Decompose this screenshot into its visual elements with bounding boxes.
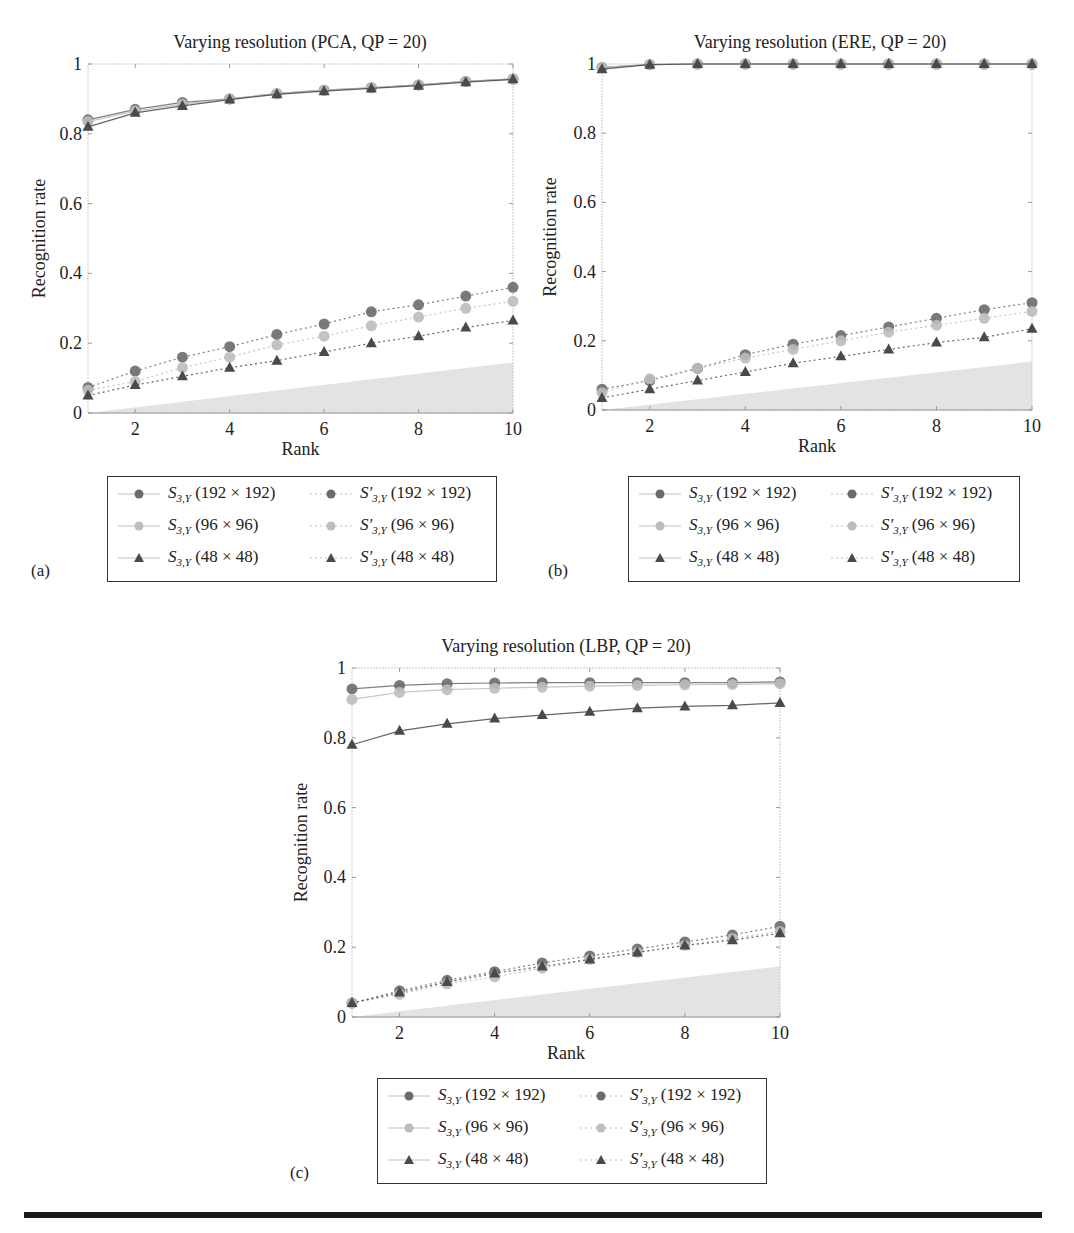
circle-marker-icon bbox=[829, 518, 875, 534]
legend-label: S′3,Y (48 × 48) bbox=[881, 547, 975, 568]
x-tick-label: 4 bbox=[741, 416, 750, 436]
x-tick-label: 10 bbox=[504, 419, 522, 439]
triangle-marker bbox=[489, 713, 500, 723]
x-tick-label: 4 bbox=[490, 1023, 499, 1043]
legend-entry: S3,Y (192 × 192) bbox=[386, 1085, 546, 1106]
legend-label: S3,Y (192 × 192) bbox=[689, 483, 797, 504]
legend-label: S3,Y (192 × 192) bbox=[168, 483, 276, 504]
chart-title: Varying resolution (PCA, QP = 20) bbox=[173, 32, 426, 53]
x-axis-label: Rank bbox=[798, 436, 836, 456]
triangle-marker bbox=[931, 337, 942, 347]
legend-label: S′3,Y (192 × 192) bbox=[360, 483, 471, 504]
circle-marker-icon bbox=[116, 486, 162, 502]
triangle-marker bbox=[584, 706, 595, 716]
legend-entry: S′3,Y (192 × 192) bbox=[578, 1085, 741, 1106]
triangle-marker-icon bbox=[386, 1152, 432, 1168]
legend-entry: S′3,Y (48 × 48) bbox=[578, 1149, 724, 1170]
chart-panel-a: Varying resolution (PCA, QP = 20)00.20.4… bbox=[0, 0, 540, 600]
triangle-marker bbox=[413, 330, 424, 340]
triangle-marker bbox=[788, 357, 799, 367]
triangle-marker bbox=[740, 366, 751, 376]
circle-marker-icon bbox=[386, 1120, 432, 1136]
legend-label: S3,Y (96 × 96) bbox=[689, 515, 780, 536]
y-tick-label: 0 bbox=[587, 400, 596, 420]
legend-entry: S3,Y (48 × 48) bbox=[386, 1149, 529, 1170]
legend-label: S3,Y (48 × 48) bbox=[168, 547, 259, 568]
circle-marker-icon bbox=[308, 518, 354, 534]
legend-entry: S3,Y (96 × 96) bbox=[116, 515, 259, 536]
circle-marker bbox=[224, 341, 235, 352]
circle-marker bbox=[130, 366, 141, 377]
legend-entry: S′3,Y (96 × 96) bbox=[308, 515, 454, 536]
legend-entry: S′3,Y (192 × 192) bbox=[829, 483, 992, 504]
circle-marker bbox=[740, 353, 751, 364]
x-tick-label: 6 bbox=[836, 416, 845, 436]
shaded-baseline-area bbox=[352, 966, 780, 1017]
legend-label: S′3,Y (192 × 192) bbox=[881, 483, 992, 504]
chart-panel-c: Varying resolution (LBP, QP = 20)00.20.4… bbox=[250, 610, 810, 1200]
y-tick-label: 0.4 bbox=[324, 867, 347, 887]
circle-marker bbox=[727, 679, 738, 690]
x-tick-label: 10 bbox=[771, 1023, 789, 1043]
y-tick-label: 0.2 bbox=[324, 937, 347, 957]
triangle-marker bbox=[224, 362, 235, 372]
legend-label: S′3,Y (96 × 96) bbox=[360, 515, 454, 536]
circle-marker bbox=[1027, 306, 1038, 317]
legend-entry: S3,Y (48 × 48) bbox=[116, 547, 259, 568]
circle-marker-icon bbox=[637, 486, 683, 502]
legend-label: S3,Y (96 × 96) bbox=[438, 1117, 529, 1138]
y-tick-label: 0.8 bbox=[574, 123, 597, 143]
triangle-marker bbox=[508, 315, 519, 325]
chart-c-tag: (c) bbox=[290, 1163, 309, 1183]
circle-marker-icon bbox=[637, 518, 683, 534]
circle-marker bbox=[366, 320, 377, 331]
y-tick-label: 0.8 bbox=[60, 124, 83, 144]
chart-a-tag: (a) bbox=[31, 561, 50, 581]
circle-marker bbox=[224, 352, 235, 363]
circle-marker bbox=[460, 303, 471, 314]
chart-b-legend: S3,Y (192 × 192)S′3,Y (192 × 192)S3,Y (9… bbox=[628, 476, 1020, 582]
y-tick-label: 0.6 bbox=[574, 192, 597, 212]
circle-marker bbox=[584, 681, 595, 692]
triangle-marker bbox=[775, 697, 786, 707]
x-tick-label: 4 bbox=[225, 419, 234, 439]
circle-marker-icon bbox=[386, 1088, 432, 1104]
series-line bbox=[352, 682, 780, 689]
circle-marker bbox=[347, 683, 358, 694]
triangle-marker-icon bbox=[116, 550, 162, 566]
circle-marker bbox=[442, 684, 453, 695]
y-tick-label: 0.8 bbox=[324, 728, 347, 748]
y-tick-label: 0 bbox=[337, 1007, 346, 1027]
x-tick-label: 10 bbox=[1023, 416, 1041, 436]
plot-frame bbox=[352, 668, 780, 1017]
circle-marker bbox=[788, 344, 799, 355]
chart-a-legend: S3,Y (192 × 192)S′3,Y (192 × 192)S3,Y (9… bbox=[107, 476, 497, 582]
legend-label: S′3,Y (96 × 96) bbox=[881, 515, 975, 536]
legend-entry: S′3,Y (192 × 192) bbox=[308, 483, 471, 504]
circle-marker bbox=[883, 327, 894, 338]
y-tick-label: 0.2 bbox=[60, 333, 83, 353]
x-tick-label: 6 bbox=[320, 419, 329, 439]
y-tick-label: 1 bbox=[587, 54, 596, 74]
y-tick-label: 1 bbox=[337, 658, 346, 678]
triangle-marker-icon bbox=[308, 550, 354, 566]
circle-marker bbox=[394, 687, 405, 698]
bottom-rule bbox=[24, 1212, 1042, 1218]
triangle-marker bbox=[727, 699, 738, 709]
legend-entry: S′3,Y (48 × 48) bbox=[308, 547, 454, 568]
triangle-marker bbox=[366, 337, 377, 347]
triangle-marker-icon bbox=[829, 550, 875, 566]
legend-entry: S3,Y (96 × 96) bbox=[637, 515, 780, 536]
legend-label: S′3,Y (96 × 96) bbox=[630, 1117, 724, 1138]
series-line bbox=[352, 703, 780, 745]
circle-marker-icon bbox=[829, 486, 875, 502]
circle-marker bbox=[366, 306, 377, 317]
legend-entry: S3,Y (192 × 192) bbox=[637, 483, 797, 504]
y-tick-label: 0.4 bbox=[60, 263, 83, 283]
circle-marker bbox=[413, 299, 424, 310]
triangle-marker bbox=[1027, 323, 1038, 333]
circle-marker bbox=[692, 363, 703, 374]
plot-frame bbox=[602, 64, 1032, 410]
y-tick-label: 0.4 bbox=[574, 262, 597, 282]
y-axis-label: Recognition rate bbox=[540, 177, 560, 296]
